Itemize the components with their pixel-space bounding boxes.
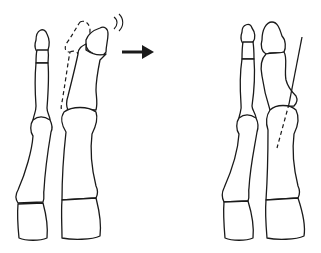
left-toe1-distal-phalanx <box>86 27 108 55</box>
right-toe2-middle-phalanx <box>242 42 254 59</box>
axis-line-solid <box>289 37 302 104</box>
right-toe1-distal-phalanx <box>261 22 285 54</box>
left-toe2-proximal-phalanx <box>33 63 50 123</box>
left-toe2-base <box>18 203 48 240</box>
left-toe2-metatarsal <box>16 117 52 203</box>
right-toe2-metatarsal <box>222 115 258 202</box>
motion-marks-icon <box>114 14 123 31</box>
right-toe1-metatarsal <box>266 106 300 201</box>
left-toe2-middle-phalanx <box>36 50 48 63</box>
right-toe1-base <box>266 198 305 239</box>
diagram <box>0 0 321 253</box>
right-toe2-proximal-phalanx <box>239 59 256 121</box>
left-toe1-base <box>62 198 101 239</box>
panel-after <box>222 22 304 240</box>
right-toe1-proximal-phalanx <box>261 52 297 110</box>
left-toe1-metatarsal <box>62 108 98 201</box>
panel-before <box>16 14 123 240</box>
arrow-right-icon <box>122 45 154 59</box>
right-toe2-base <box>224 201 254 240</box>
